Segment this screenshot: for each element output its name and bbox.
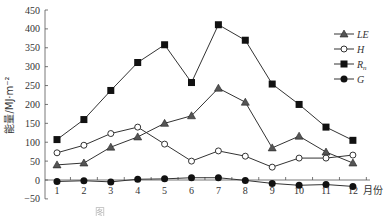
y-tick-label: 50 [30, 156, 40, 167]
data-point-marker [134, 133, 142, 140]
y-tick-label: 250 [25, 80, 40, 91]
data-point-marker [296, 101, 303, 108]
y-tick-label: 100 [25, 137, 40, 148]
x-tick-label: 7 [216, 185, 221, 196]
x-tick-label: 5 [162, 185, 167, 196]
data-point-marker [161, 41, 168, 48]
legend-label: H [356, 44, 365, 55]
legend-item-h: H [334, 44, 365, 55]
x-tick-label: 4 [135, 185, 140, 196]
data-point-marker [242, 177, 249, 184]
legend-item-g: G [334, 74, 364, 85]
legend: LEHRnG [334, 29, 369, 85]
data-point-marker [296, 155, 302, 161]
data-point-marker [161, 175, 168, 182]
data-point-marker [323, 155, 329, 161]
legend-rn-marker [341, 61, 348, 68]
data-point-marker [349, 137, 356, 144]
x-tick-label: 8 [243, 185, 248, 196]
data-point-marker [323, 181, 330, 188]
data-point-marker [269, 164, 275, 170]
data-point-marker [189, 158, 195, 164]
x-tick-label: 3 [108, 185, 113, 196]
legend-item-le: LE [334, 29, 369, 40]
data-point-marker [215, 174, 222, 181]
data-point-marker [349, 159, 357, 166]
data-point-marker [322, 148, 330, 155]
data-point-marker [268, 144, 276, 151]
series-h [54, 124, 356, 170]
series-line-h [57, 127, 353, 167]
y-axis-label: 能量/MJ·m⁻² [3, 76, 15, 133]
series-line-le [57, 88, 353, 165]
x-axis: 123456789101112 [45, 177, 370, 196]
legend-label: Rn [356, 59, 367, 72]
data-point-marker [54, 136, 61, 143]
x-tick-label: 6 [189, 185, 194, 196]
y-tick-label: 150 [25, 118, 40, 129]
data-point-marker [188, 79, 195, 86]
data-point-marker [107, 87, 114, 94]
legend-h-marker [341, 46, 347, 52]
data-point-marker [134, 176, 141, 183]
data-point-marker [81, 142, 87, 148]
y-tick-label: −50 [24, 193, 40, 204]
data-point-marker [241, 98, 249, 105]
data-point-marker [215, 148, 221, 154]
y-tick-label: 450 [25, 5, 40, 16]
plot-series [53, 21, 357, 190]
y-tick-label: 200 [25, 99, 40, 110]
data-point-marker [107, 178, 114, 185]
data-point-marker [269, 81, 276, 88]
data-point-marker [107, 143, 115, 150]
data-point-marker [54, 178, 61, 185]
data-point-marker [80, 177, 87, 184]
data-point-marker [80, 159, 88, 166]
y-tick-label: 0 [35, 175, 40, 186]
data-point-marker [350, 152, 356, 158]
data-point-marker [215, 21, 222, 28]
data-point-marker [295, 132, 303, 139]
x-tick-label: 1 [55, 185, 60, 196]
data-point-marker [242, 153, 248, 159]
series-line-rn [57, 25, 353, 141]
y-tick-label: 300 [25, 61, 40, 72]
data-point-marker [188, 174, 195, 181]
figure-caption: 图 [95, 204, 105, 216]
data-point-marker [80, 116, 87, 123]
data-point-marker [296, 182, 303, 189]
legend-label: LE [356, 29, 369, 40]
line-chart: 450400350300250200150100500−50 123456789… [0, 0, 386, 216]
y-tick-label: 400 [25, 23, 40, 34]
legend-g-marker [341, 76, 348, 83]
data-point-marker [214, 84, 222, 91]
data-point-marker [323, 124, 330, 131]
data-point-marker [349, 183, 356, 190]
y-tick-label: 350 [25, 42, 40, 53]
series-rn [54, 21, 357, 144]
x-tick-label: 2 [81, 185, 86, 196]
data-point-marker [162, 141, 168, 147]
data-point-marker [54, 150, 60, 156]
legend-item-rn: Rn [334, 59, 367, 72]
data-point-marker [108, 131, 114, 137]
series-le [53, 84, 357, 168]
data-point-marker [134, 59, 141, 66]
data-point-marker [242, 37, 249, 44]
data-point-marker [135, 124, 141, 130]
data-point-marker [269, 180, 276, 187]
legend-label: G [357, 74, 364, 85]
y-axis: 450400350300250200150100500−50 [24, 5, 48, 205]
series-g [54, 174, 357, 190]
x-axis-label: 月份 [363, 185, 383, 196]
